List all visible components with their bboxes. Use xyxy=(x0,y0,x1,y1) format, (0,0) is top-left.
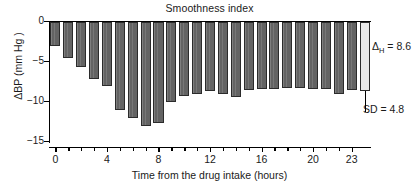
smoothness-index-chart-figure: Smoothness index 0 −5 −10 −15 ΔBP (mm Hg… xyxy=(0,0,419,190)
x-tick-5 xyxy=(120,147,121,151)
x-tick-4 xyxy=(107,147,108,152)
annotation-delta-h: ΔH = 8.6 xyxy=(372,40,411,57)
bar-hour-21 xyxy=(321,22,331,89)
x-tick-label-0: 0 xyxy=(42,153,68,165)
bar-hour-10 xyxy=(179,22,189,96)
bar-hour-19 xyxy=(295,22,305,88)
bar-hour-20 xyxy=(308,22,318,89)
x-tick-16 xyxy=(262,147,263,152)
x-tick-7 xyxy=(146,147,147,151)
bar-hour-2 xyxy=(76,22,86,67)
x-tick-9 xyxy=(171,147,172,151)
y-tick-0 xyxy=(44,21,49,22)
bar-hour-3 xyxy=(89,22,99,79)
annotation-delta-value: = 8.6 xyxy=(384,40,411,52)
x-tick-0 xyxy=(55,147,56,152)
bar-summary-mean xyxy=(360,22,370,91)
annotation-delta-symbol: Δ xyxy=(372,40,379,52)
bar-hour-23 xyxy=(347,22,357,90)
bar-hour-9 xyxy=(166,22,176,102)
y-tick-label-0: 0 xyxy=(4,16,44,26)
x-tick-17 xyxy=(274,147,275,151)
x-axis-title: Time from the drug intake (hours) xyxy=(0,169,419,181)
x-tick-12 xyxy=(210,147,211,152)
bar-hour-13 xyxy=(218,22,228,94)
x-tick-19 xyxy=(300,147,301,151)
bar-hour-5 xyxy=(115,22,125,110)
x-tick-21 xyxy=(326,147,327,151)
bar-hour-18 xyxy=(282,22,292,88)
y-tick-minus5 xyxy=(44,61,49,62)
bar-hour-7 xyxy=(141,22,151,126)
x-tick-23 xyxy=(352,147,353,152)
bar-hour-1 xyxy=(63,22,73,58)
chart-title: Smoothness index xyxy=(0,2,419,14)
bar-hour-16 xyxy=(257,22,267,89)
x-tick-1 xyxy=(68,147,69,151)
x-tick-2 xyxy=(81,147,82,151)
x-tick-label-20: 20 xyxy=(300,153,326,165)
x-tick-20 xyxy=(313,147,314,152)
x-tick-22 xyxy=(339,147,340,151)
x-tick-label-12: 12 xyxy=(197,153,223,165)
bar-hour-4 xyxy=(102,22,112,86)
x-tick-14 xyxy=(236,147,237,151)
annotation-sd: SD = 4.8 xyxy=(363,103,404,115)
x-tick-label-8: 8 xyxy=(145,153,171,165)
x-tick-18 xyxy=(287,147,288,151)
y-tick-label-minus15: −15 xyxy=(4,136,44,146)
x-tick-label-23: 23 xyxy=(339,153,365,165)
bar-hour-6 xyxy=(128,22,138,118)
y-axis-title: ΔBP (mm Hg ) xyxy=(12,1,24,131)
x-tick-6 xyxy=(133,147,134,151)
bar-hour-11 xyxy=(192,22,202,94)
bar-hour-15 xyxy=(244,22,254,90)
bar-hour-0 xyxy=(50,22,60,46)
bar-hour-12 xyxy=(205,22,215,91)
x-tick-label-4: 4 xyxy=(94,153,120,165)
bar-hour-17 xyxy=(269,22,279,89)
x-tick-label-16: 16 xyxy=(249,153,275,165)
x-tick-10 xyxy=(184,147,185,151)
y-tick-minus10 xyxy=(44,101,49,102)
x-tick-13 xyxy=(223,147,224,151)
y-tick-label-minus5: −5 xyxy=(4,56,44,66)
bar-hour-8 xyxy=(153,22,163,123)
x-tick-15 xyxy=(249,147,250,151)
x-tick-8 xyxy=(158,147,159,152)
x-tick-3 xyxy=(94,147,95,151)
bar-hour-14 xyxy=(231,22,241,97)
y-tick-minus15 xyxy=(44,141,49,142)
error-bar-sd xyxy=(365,91,366,112)
x-tick-11 xyxy=(197,147,198,151)
bar-hour-22 xyxy=(334,22,344,94)
y-tick-label-minus10: −10 xyxy=(4,96,44,106)
